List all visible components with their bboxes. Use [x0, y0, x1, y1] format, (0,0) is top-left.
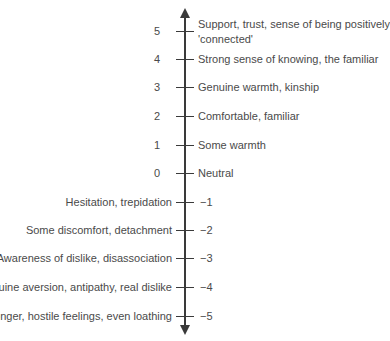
level-number-1: 1 [154, 139, 160, 152]
level-label-neg5: Stronger, hostile feelings, even loathin… [0, 310, 172, 323]
level-label-5: Support, trust, sense of being positivel… [198, 18, 390, 31]
level-label-2: Comfortable, familiar [198, 110, 299, 123]
level-number-4: 4 [154, 53, 160, 66]
tick-neg5 [176, 316, 194, 317]
level-label-3: Genuine warmth, kinship [198, 81, 319, 94]
tick-5 [176, 31, 194, 32]
level-label-1: Some warmth [198, 139, 266, 152]
level-number-neg2: −2 [200, 224, 213, 237]
tick-4 [176, 59, 194, 60]
tick-3 [176, 87, 194, 88]
tick-0 [176, 173, 194, 174]
level-number-5: 5 [154, 25, 160, 38]
tick-1 [176, 145, 194, 146]
level-label-neg2: Some discomfort, detachment [26, 224, 172, 237]
level-label-4: Strong sense of knowing, the familiar [198, 53, 378, 66]
level-number-0: 0 [154, 167, 160, 180]
arrow-down-icon [180, 325, 190, 335]
level-label-neg3: Awareness of dislike, disassociation [0, 252, 172, 265]
level-label-0: Neutral [198, 167, 233, 180]
level-number-neg3: −3 [200, 252, 213, 265]
level-number-neg1: −1 [200, 196, 213, 209]
level-label-neg1: Hesitation, trepidation [66, 196, 172, 209]
tick-neg4 [176, 287, 194, 288]
level-number-3: 3 [154, 81, 160, 94]
level-label-5-cont: 'connected' [198, 33, 253, 46]
level-number-2: 2 [154, 110, 160, 123]
level-number-neg5: −5 [200, 310, 213, 323]
tick-neg1 [176, 202, 194, 203]
tick-neg3 [176, 258, 194, 259]
level-number-neg4: −4 [200, 281, 213, 294]
level-label-neg4: Genuine aversion, antipathy, real dislik… [0, 281, 172, 294]
arrow-up-icon [180, 8, 190, 18]
tick-2 [176, 116, 194, 117]
tick-neg2 [176, 230, 194, 231]
